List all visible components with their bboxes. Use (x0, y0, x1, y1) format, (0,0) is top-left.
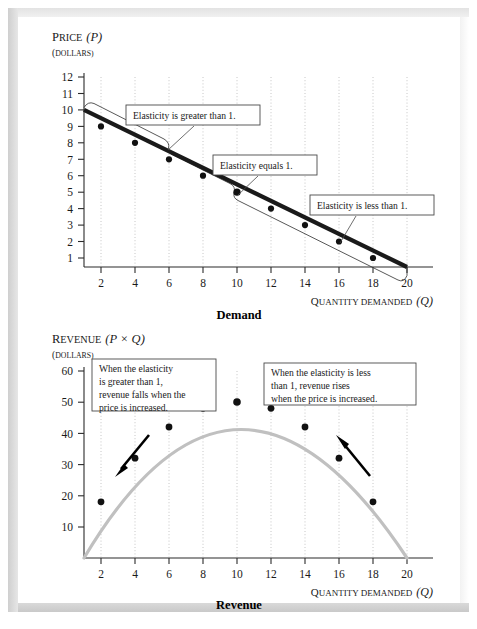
svg-text:60: 60 (62, 365, 74, 377)
svg-text:price is increased.: price is increased. (99, 402, 168, 413)
demand-x-ticks: 2 4 6 8 10 12 14 16 18 (98, 267, 413, 289)
frame-border-right (460, 17, 469, 603)
svg-text:18: 18 (367, 568, 379, 580)
revenue-x-ticks: 2 4 6 8 10 12 14 16 18 (98, 558, 413, 580)
revenue-y-axis-title: REVENUE(P × Q) (52, 332, 145, 346)
svg-text:7: 7 (67, 154, 73, 166)
svg-text:When the elasticity is less: When the elasticity is less (271, 367, 371, 378)
svg-text:2: 2 (98, 568, 104, 580)
revenue-curve (84, 430, 407, 559)
elastic-callout: Elasticity is greater than 1. (126, 105, 260, 150)
svg-text:11: 11 (62, 88, 73, 100)
svg-text:10: 10 (62, 104, 74, 116)
svg-text:20: 20 (401, 277, 413, 289)
figure-content: PRICE(P) (DOLLARS) (18, 17, 460, 603)
svg-text:12: 12 (62, 71, 74, 83)
svg-text:10: 10 (62, 521, 74, 533)
svg-text:20: 20 (401, 568, 413, 580)
svg-text:9: 9 (67, 121, 73, 133)
svg-text:16: 16 (333, 568, 345, 580)
frame-border-top (8, 8, 469, 17)
svg-text:5: 5 (67, 186, 73, 198)
inelastic-callout: Elasticity is less than 1. (310, 195, 434, 243)
svg-text:14: 14 (299, 568, 311, 580)
revenue-chart-name: Revenue (18, 595, 460, 613)
demand-chart-name: Demand (18, 305, 460, 323)
svg-text:is greater than 1,: is greater than 1, (99, 376, 163, 387)
revenue-rises-callout: When the elasticity is less than 1, reve… (264, 363, 416, 405)
demand-chart: PRICE(P) (DOLLARS) (18, 17, 460, 317)
revenue-rises-arrow (336, 435, 370, 476)
svg-text:2: 2 (98, 277, 104, 289)
frame-border-left (8, 8, 18, 612)
demand-y-axis-title: PRICE(P) (52, 30, 102, 44)
svg-text:6: 6 (67, 170, 73, 182)
svg-text:8: 8 (200, 277, 206, 289)
demand-curve (84, 110, 407, 267)
revenue-falls-arrow (115, 435, 149, 477)
svg-text:10: 10 (231, 568, 243, 580)
svg-text:4: 4 (132, 568, 138, 580)
svg-text:Elasticity equals 1.: Elasticity equals 1. (220, 160, 293, 171)
svg-text:2: 2 (67, 236, 73, 248)
svg-text:3: 3 (67, 219, 73, 231)
revenue-chart: REVENUE(P × Q) (DOLLARS) (18, 323, 460, 603)
demand-y-ticks: 12 11 10 9 8 7 6 5 4 (62, 71, 85, 264)
svg-text:12: 12 (265, 568, 277, 580)
demand-y-axis-units: (DOLLARS) (52, 48, 94, 59)
revenue-y-ticks: 60 50 40 30 20 10 (62, 365, 85, 533)
svg-text:18: 18 (367, 277, 379, 289)
svg-text:10: 10 (231, 277, 243, 289)
revenue-falls-callout: When the elasticity is greater than 1, r… (92, 359, 216, 413)
svg-text:12: 12 (265, 277, 277, 289)
svg-text:than 1, revenue rises: than 1, revenue rises (271, 380, 350, 391)
svg-text:4: 4 (67, 203, 73, 215)
unit-elastic-callout: Elasticity equals 1. (213, 155, 317, 195)
svg-text:6: 6 (166, 277, 172, 289)
svg-text:30: 30 (62, 459, 74, 471)
svg-text:14: 14 (299, 277, 311, 289)
svg-text:50: 50 (62, 396, 74, 408)
svg-text:revenue falls when the: revenue falls when the (99, 389, 186, 400)
svg-text:Elasticity is greater than 1.: Elasticity is greater than 1. (133, 110, 236, 121)
figure-frame: PRICE(P) (DOLLARS) (0, 0, 477, 629)
elasticity-brace (84, 103, 407, 281)
revenue-y-axis-units: (DOLLARS) (52, 350, 94, 361)
svg-text:4: 4 (132, 277, 138, 289)
svg-text:1: 1 (67, 252, 73, 264)
svg-text:6: 6 (166, 568, 172, 580)
svg-text:20: 20 (62, 490, 74, 502)
svg-text:40: 40 (62, 428, 74, 440)
svg-text:when the price is increased.: when the price is increased. (271, 393, 377, 404)
svg-text:Elasticity is less than 1.: Elasticity is less than 1. (317, 200, 407, 211)
svg-text:16: 16 (333, 277, 345, 289)
svg-text:8: 8 (67, 137, 73, 149)
svg-text:8: 8 (200, 568, 206, 580)
svg-text:When the elasticity: When the elasticity (99, 363, 173, 374)
